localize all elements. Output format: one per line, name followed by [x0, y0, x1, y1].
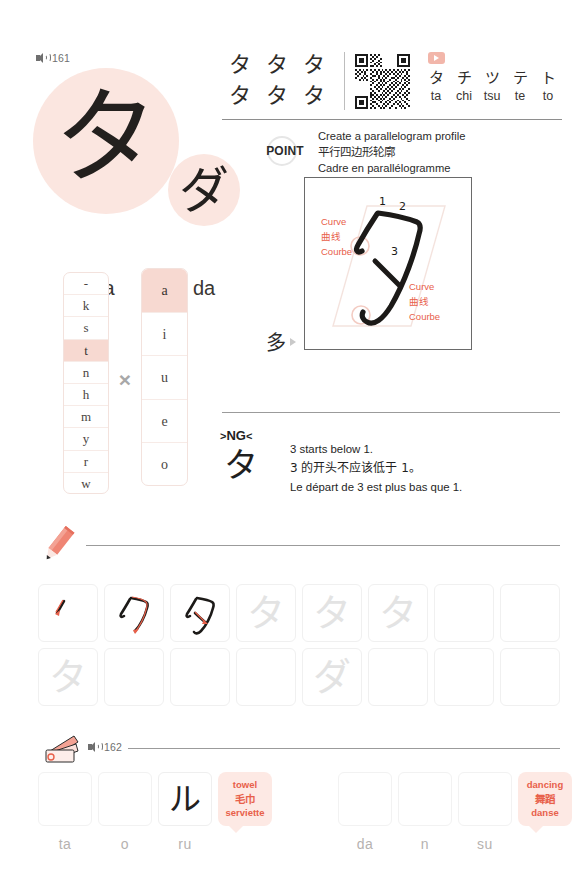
practice-cell-empty[interactable] [104, 648, 164, 706]
kana-sample: タ [295, 81, 332, 111]
arrow-right-icon [290, 338, 296, 346]
syllable-builder: - k s t n h m y r w × a i u e o [63, 268, 188, 494]
meaning-zh: 舞蹈 [535, 792, 555, 806]
ng-text-fr: Le départ de 3 est plus bas que 1. [290, 478, 565, 497]
word-romaji: o [98, 826, 152, 852]
point-text-fr: Cadre en parallélogramme [318, 160, 562, 176]
curve-label-top-zh: 曲线 [321, 231, 341, 242]
kana-sample-grid: タ タ タ タ タ タ [222, 50, 332, 111]
consonant-cell[interactable]: w [64, 473, 108, 494]
kana-row-item: チ chi [450, 68, 478, 104]
practice-cell-empty[interactable] [236, 648, 296, 706]
trace-char: タ [237, 585, 295, 641]
practice-cell-trace[interactable]: タ [302, 584, 362, 642]
word-cell: n [398, 772, 452, 852]
consonant-cell[interactable]: - [64, 273, 108, 295]
kana-romaji: chi [450, 88, 478, 104]
word-box[interactable] [98, 772, 152, 826]
ng-text-block: 3 starts below 1. 3 的开头不应该低于 1。 Le dépar… [290, 428, 565, 497]
practice-row-1: タ タ タ [38, 584, 560, 642]
kana-row-item: ト to [534, 68, 562, 104]
kana-char: チ [450, 68, 478, 88]
hero-kana-voiced: ダ [166, 156, 242, 226]
stroke-diagram: 1 2 3 Curve 曲线 Courbe Curve 曲线 Courbe [304, 177, 472, 350]
point-section: POINT Create a parallelogram profile 平行四… [262, 128, 562, 176]
practice-cell-trace[interactable]: ダ [302, 648, 362, 706]
practice-cell-empty[interactable] [500, 648, 560, 706]
practice-cell-trace[interactable]: タ [236, 584, 296, 642]
practice-cell-stroke3[interactable] [170, 584, 230, 642]
word-cell: o [98, 772, 152, 852]
hero-section: 161 タ ダ ta da [0, 44, 250, 264]
consonant-cell[interactable]: k [64, 295, 108, 317]
kana-sample: タ [295, 50, 332, 80]
word-box[interactable] [338, 772, 392, 826]
audio-button-162[interactable]: 162 [88, 741, 122, 753]
kana-char: タ [422, 68, 450, 88]
practice-cell-empty[interactable] [500, 584, 560, 642]
point-text-zh: 平行四边形轮廓 [318, 144, 562, 160]
meaning-bubble-towel: towel 毛巾 serviette [218, 772, 272, 826]
vowel-cell[interactable]: u [142, 356, 187, 400]
meaning-en: towel [233, 778, 257, 792]
kana-sample: タ [222, 50, 259, 80]
trace-char: ダ [303, 649, 361, 705]
consonant-cell[interactable]: y [64, 428, 108, 450]
vowel-cell[interactable]: o [142, 443, 187, 486]
practice-cell-trace[interactable]: タ [368, 584, 428, 642]
vowel-cell[interactable]: i [142, 313, 187, 357]
kana-row-item: タ ta [422, 68, 450, 104]
word-section-rule [128, 748, 560, 749]
word-cell: ta [38, 772, 92, 852]
qr-code-icon[interactable] [355, 54, 410, 109]
kana-char: ト [534, 68, 562, 88]
vowel-cell[interactable]: e [142, 400, 187, 444]
point-badge: POINT [262, 136, 308, 166]
practice-row-2: タ ダ [38, 648, 560, 706]
consonant-cell[interactable]: m [64, 406, 108, 428]
vowel-column: a i u e o [141, 268, 188, 486]
consonant-cell[interactable]: h [64, 384, 108, 406]
hero-kana-main: タ [33, 62, 179, 214]
vowel-cell-selected[interactable]: a [142, 269, 187, 313]
stroke-number-1: 1 [379, 195, 386, 208]
consonant-cell[interactable]: n [64, 362, 108, 384]
section-rule-ng [222, 412, 560, 413]
word-romaji: da [338, 826, 392, 852]
kana-char: ツ [478, 68, 506, 88]
kanji-origin-char: 多 [266, 327, 286, 356]
trace-char: タ [303, 585, 361, 641]
practice-cell-empty[interactable] [434, 648, 494, 706]
kana-romaji: to [534, 88, 562, 104]
practice-cell-empty[interactable] [434, 584, 494, 642]
word-romaji [278, 826, 332, 836]
consonant-cell[interactable]: s [64, 317, 108, 339]
multiply-operator: × [113, 368, 137, 392]
practice-cell-trace[interactable]: タ [38, 648, 98, 706]
ng-text-en: 3 starts below 1. [290, 440, 565, 459]
kanji-origin-ref: 多 [266, 327, 296, 356]
stroke-number-3: 3 [391, 245, 398, 258]
curve-label-bottom-zh: 曲线 [409, 296, 429, 307]
practice-cell-stroke1[interactable] [38, 584, 98, 642]
practice-cell-empty[interactable] [170, 648, 230, 706]
consonant-cell[interactable]: r [64, 451, 108, 473]
point-label: POINT [262, 144, 308, 158]
practice-rule [86, 545, 560, 546]
word-box-filled[interactable]: ル [158, 772, 212, 826]
word-box[interactable] [458, 772, 512, 826]
point-text-en: Create a parallelogram profile [318, 128, 562, 144]
audio-track-number: 162 [104, 741, 122, 753]
play-button-icon[interactable] [428, 52, 445, 64]
flashcards-icon [38, 735, 82, 765]
consonant-cell-selected[interactable]: t [64, 340, 108, 362]
kana-char: テ [506, 68, 534, 88]
stroke-diagram-svg: 1 2 3 Curve 曲线 Courbe Curve 曲线 Courbe [305, 178, 473, 351]
word-box[interactable] [398, 772, 452, 826]
word-box[interactable] [38, 772, 92, 826]
practice-cell-stroke2[interactable] [104, 584, 164, 642]
meaning-en: dancing [527, 778, 563, 792]
practice-cell-empty[interactable] [368, 648, 428, 706]
ng-text: NG [226, 428, 246, 443]
ng-section: >NG< タ 3 starts below 1. 3 的开头不应该低于 1。 L… [220, 428, 565, 497]
